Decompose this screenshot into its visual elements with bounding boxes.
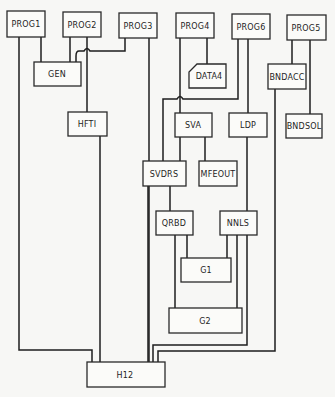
node-prog3[interactable]: PROG3 (119, 13, 157, 38)
node-label-prog1: PROG1 (12, 20, 41, 29)
node-label-g2: G2 (199, 317, 211, 326)
node-label-prog4: PROG4 (181, 22, 210, 31)
node-h12[interactable]: H12 (87, 362, 165, 387)
edge-nnls-h12 (153, 235, 247, 362)
node-bndsol[interactable]: BNDSOL (286, 114, 322, 138)
call-graph-diagram: PROG1 PROG2 PROG3 PROG4 PROG6 PROG5 GEN … (0, 0, 335, 397)
node-prog5[interactable]: PROG5 (287, 15, 326, 40)
edge-prog6-svdrs (163, 37, 238, 161)
node-mfeout[interactable]: MFEOUT (199, 161, 237, 186)
node-label-h12: H12 (117, 371, 134, 380)
node-label-ldp: LDP (240, 121, 256, 130)
node-label-nnls: NNLS (227, 219, 249, 228)
node-data4[interactable]: DATA4 (189, 64, 226, 88)
edge-prog3-gen (76, 37, 125, 62)
node-ldp[interactable]: LDP (229, 113, 267, 137)
node-label-qrbd: QRBD (162, 219, 186, 228)
node-label-svdrs: SVDRS (150, 170, 178, 179)
node-nnls[interactable]: NNLS (220, 211, 257, 235)
node-g2[interactable]: G2 (169, 308, 242, 333)
node-label-g1: G1 (200, 266, 212, 275)
node-qrbd[interactable]: QRBD (156, 211, 193, 235)
node-sva[interactable]: SVA (175, 113, 212, 137)
node-svdrs[interactable]: SVDRS (143, 161, 186, 186)
node-label-bndsol: BNDSOL (287, 122, 322, 131)
node-label-mfeout: MFEOUT (201, 170, 236, 179)
node-gen[interactable]: GEN (34, 62, 81, 86)
node-prog4[interactable]: PROG4 (176, 13, 214, 38)
node-hfti[interactable]: HFTI (68, 112, 107, 136)
node-prog6[interactable]: PROG6 (232, 14, 270, 39)
node-label-prog3: PROG3 (124, 22, 153, 31)
node-label-prog6: PROG6 (237, 23, 266, 32)
node-label-prog5: PROG5 (292, 24, 321, 33)
node-label-prog2: PROG2 (68, 21, 97, 30)
node-bndacc[interactable]: BNDACC (268, 64, 306, 89)
node-g1[interactable]: G1 (181, 258, 231, 282)
node-label-sva: SVA (185, 121, 201, 130)
node-label-gen: GEN (48, 70, 66, 79)
node-prog1[interactable]: PROG1 (7, 11, 45, 37)
node-label-bndacc: BNDACC (269, 73, 304, 82)
node-label-data4: DATA4 (196, 72, 223, 81)
node-label-hfti: HFTI (78, 120, 97, 129)
node-prog2[interactable]: PROG2 (63, 12, 101, 37)
